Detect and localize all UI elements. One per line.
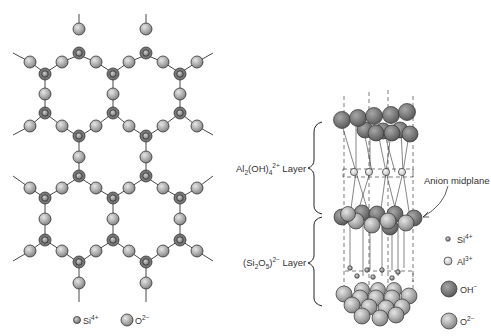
o-ion-icon	[121, 314, 133, 326]
o-ion-icon	[441, 313, 457, 329]
si-ion-icon	[446, 237, 451, 242]
silicate-sheet	[13, 14, 213, 302]
legend-si-label: Si4+	[457, 234, 472, 245]
oh-layer-top	[334, 104, 419, 143]
legend-si-label: Si4+	[83, 315, 98, 326]
bond-lines	[342, 125, 410, 276]
anion-midplane-arrow	[423, 186, 448, 217]
oh-ion-icon	[441, 281, 457, 297]
al-layer	[350, 168, 405, 175]
right-legend-icons	[441, 237, 457, 329]
layer-braces	[308, 122, 322, 306]
al-layer-label: Al2(OH)42+ Layer	[236, 163, 306, 177]
anion-midplane-label: Anion midplane	[424, 176, 490, 186]
si-layer-cations	[348, 266, 401, 281]
si-layer-label: (Si2O5)2− Layer	[243, 257, 306, 271]
legend-o-label: O2−	[135, 315, 149, 326]
o-layer-bottom	[336, 283, 417, 327]
legend-o-label: O2−	[460, 316, 474, 327]
al-ion-icon	[444, 257, 452, 265]
legend-al-label: Al3+	[457, 256, 472, 267]
legend-oh-label: OH−	[460, 284, 477, 295]
silicate-sheet-atoms	[24, 23, 203, 289]
si-ion-icon	[74, 317, 81, 324]
